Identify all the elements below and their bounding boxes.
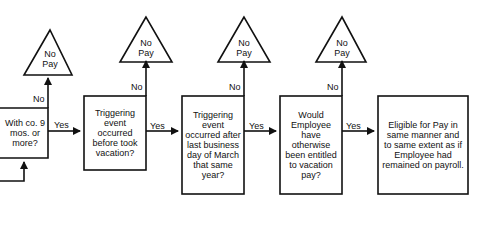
- node-trigger-after-march: Triggering event occurred after last bus…: [184, 98, 242, 192]
- edge-label-no-3: No: [229, 82, 241, 92]
- edge-label-yes-3: Yes: [249, 121, 264, 131]
- edge-label-no-2: No: [131, 82, 143, 92]
- terminal-no-pay-4-text: No Pay: [330, 38, 354, 58]
- edge-label-yes-4: Yes: [346, 121, 361, 131]
- node-entitled: Would Employee have otherwise been entit…: [282, 98, 340, 192]
- node-eligible: Eligible for Pay in same manner and to s…: [382, 98, 464, 192]
- terminal-no-pay-3-text: No Pay: [232, 38, 256, 58]
- edge-label-yes-2: Yes: [150, 121, 165, 131]
- node-tenure: With co. 9 mos. or more?: [2, 110, 48, 156]
- node-trigger-before: Triggering event occurred before took va…: [86, 98, 144, 168]
- terminal-no-pay-1-text: No Pay: [38, 49, 62, 69]
- edge-label-no-1: No: [33, 94, 45, 104]
- edge-label-yes-1: Yes: [54, 120, 69, 130]
- edge-label-no-4: No: [327, 82, 339, 92]
- terminal-no-pay-2-text: No Pay: [134, 38, 158, 58]
